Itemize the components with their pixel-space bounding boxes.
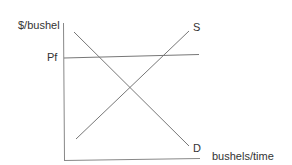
demand-label: D xyxy=(193,143,201,154)
price-line-label: Pf xyxy=(47,52,57,63)
price-line-pf xyxy=(64,55,199,59)
y-axis-label: $/bushel xyxy=(18,20,60,31)
demand-curve xyxy=(74,32,189,146)
x-axis xyxy=(64,159,200,161)
supply-curve xyxy=(76,31,189,139)
supply-label: S xyxy=(193,22,200,33)
y-axis xyxy=(64,23,65,160)
x-axis-label: bushels/time xyxy=(212,151,274,162)
